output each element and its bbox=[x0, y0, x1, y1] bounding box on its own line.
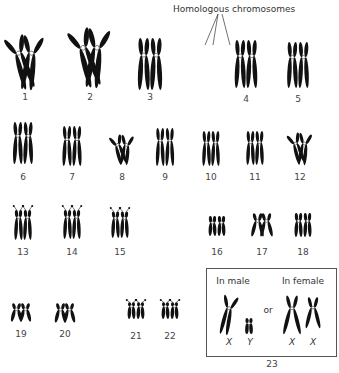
pair-label-1: 1 bbox=[22, 92, 28, 102]
pair-label-5: 5 bbox=[295, 94, 301, 104]
chromosome-pair-5 bbox=[286, 42, 309, 88]
pair-label-12: 12 bbox=[294, 172, 305, 182]
female-x1-label: X bbox=[289, 337, 295, 347]
or-connector: or bbox=[263, 305, 272, 315]
chromosome bbox=[208, 216, 216, 236]
pointer-line bbox=[213, 14, 218, 45]
chromosome-pair-18 bbox=[294, 213, 312, 237]
pair-label-20: 20 bbox=[59, 329, 70, 339]
chromosome-pair-22 bbox=[160, 299, 181, 319]
male-heading: In male bbox=[216, 276, 250, 286]
chromosome bbox=[286, 42, 298, 88]
pointer-line bbox=[205, 14, 218, 45]
chromosome-pair-7 bbox=[62, 126, 82, 166]
chromosome bbox=[13, 205, 25, 240]
figure-title: Homologous chromosomes bbox=[173, 4, 295, 14]
pair-label-3: 3 bbox=[147, 92, 153, 102]
pair-label-19: 19 bbox=[15, 329, 26, 339]
chromosome-pair-12 bbox=[285, 131, 313, 166]
chromosome-pair-19 bbox=[10, 303, 32, 322]
chromosome bbox=[255, 131, 264, 165]
chromosome bbox=[155, 128, 165, 166]
chromosome-pair-2 bbox=[65, 26, 112, 90]
pair-label-2: 2 bbox=[87, 92, 93, 102]
pair-label-4: 4 bbox=[243, 94, 249, 104]
pointer-line bbox=[222, 14, 230, 45]
chromosome bbox=[303, 213, 312, 237]
chromosome-pair-11 bbox=[246, 131, 264, 165]
chromosome-pair-16 bbox=[208, 216, 225, 236]
pair-label-21: 21 bbox=[130, 331, 141, 341]
pair-label-16: 16 bbox=[211, 247, 222, 257]
pair-label-17: 17 bbox=[256, 247, 267, 257]
chromosome bbox=[119, 207, 131, 238]
pair-label-11: 11 bbox=[249, 172, 260, 182]
pair-label-8: 8 bbox=[119, 172, 125, 182]
chromosome bbox=[160, 299, 172, 319]
chromosome-pair-4 bbox=[234, 40, 258, 88]
chromosome bbox=[211, 131, 220, 166]
chromosome-pair-1 bbox=[2, 33, 45, 92]
chromosome bbox=[62, 126, 72, 166]
female-heading: In female bbox=[282, 276, 324, 286]
male-x-label: X bbox=[226, 337, 232, 347]
chromosome-pair-20 bbox=[54, 303, 76, 323]
chromosome bbox=[150, 38, 163, 90]
chromosome-pair-3 bbox=[137, 38, 163, 90]
pair-label-18: 18 bbox=[297, 247, 308, 257]
chromosome bbox=[62, 205, 74, 239]
pair-label-23: 23 bbox=[266, 359, 277, 369]
chromosome bbox=[202, 131, 211, 166]
female-x2-label: X bbox=[310, 337, 316, 347]
chromosome-pair-8 bbox=[108, 133, 135, 166]
chromosome bbox=[19, 303, 32, 322]
chromosome-pair-17 bbox=[250, 213, 274, 237]
chromosome-pair-14 bbox=[62, 205, 83, 239]
chromosome bbox=[135, 299, 147, 319]
chromosome bbox=[298, 42, 310, 88]
chromosome bbox=[63, 303, 76, 323]
chromosome bbox=[126, 299, 138, 319]
chromosome bbox=[72, 126, 82, 166]
pair-label-6: 6 bbox=[20, 172, 26, 182]
chromosome-pair-13 bbox=[13, 205, 34, 240]
chromosome-pair-9 bbox=[155, 128, 174, 166]
chromosome bbox=[169, 299, 181, 319]
chromosome-pair-21 bbox=[126, 299, 147, 319]
chromosome bbox=[23, 122, 34, 164]
chromosome bbox=[217, 216, 225, 236]
chromosome bbox=[246, 131, 255, 165]
chromosome-pair-6 bbox=[12, 122, 33, 164]
chromosome-pair-15 bbox=[110, 207, 131, 238]
chromosome bbox=[137, 38, 150, 90]
male-y-label: Y bbox=[247, 337, 253, 347]
chromosome bbox=[110, 207, 122, 238]
chromosome bbox=[12, 122, 23, 164]
pair-label-13: 13 bbox=[17, 247, 28, 257]
chromosome bbox=[234, 40, 246, 88]
pair-label-7: 7 bbox=[69, 172, 75, 182]
pair-label-15: 15 bbox=[114, 247, 125, 257]
pair-label-10: 10 bbox=[205, 172, 216, 182]
chromosome bbox=[246, 40, 258, 88]
chromosome bbox=[294, 213, 303, 237]
pair-label-22: 22 bbox=[164, 331, 175, 341]
pair-label-9: 9 bbox=[162, 172, 168, 182]
pair-label-14: 14 bbox=[66, 247, 77, 257]
chromosome bbox=[165, 128, 175, 166]
chromosome bbox=[22, 205, 34, 240]
chromosome bbox=[71, 205, 83, 239]
chromosome-pair-10 bbox=[202, 131, 220, 166]
